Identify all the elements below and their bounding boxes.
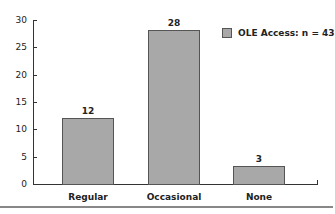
bottom-divider (0, 206, 333, 208)
bar-value-regular: 12 (62, 106, 114, 116)
y-tick-label: 5 (7, 152, 27, 162)
y-tick-mark (33, 157, 37, 158)
x-category-label: None (219, 192, 299, 202)
y-tick-label: 25 (7, 42, 27, 52)
y-tick-label: 20 (7, 70, 27, 80)
y-tick-label: 30 (7, 15, 27, 25)
x-category-label: Regular (48, 192, 128, 202)
y-tick-mark (33, 20, 37, 21)
bar-value-none: 3 (233, 154, 285, 164)
legend-swatch-icon (222, 28, 232, 38)
legend: OLE Access: n = 43 (222, 28, 335, 38)
bar-none (233, 166, 285, 185)
legend-label: OLE Access: n = 43 (238, 28, 335, 38)
y-tick-mark (33, 129, 37, 130)
y-tick-label: 10 (7, 124, 27, 134)
y-tick-mark (33, 47, 37, 48)
x-category-label: Occasional (134, 192, 214, 202)
bar-regular (62, 118, 114, 185)
y-tick-label: 0 (7, 179, 27, 189)
x-axis-end-tick (317, 180, 318, 185)
y-tick-mark (33, 102, 37, 103)
bar-value-occasional: 28 (148, 18, 200, 28)
y-tick-label: 15 (7, 97, 27, 107)
y-tick-mark (33, 75, 37, 76)
bar-occasional (148, 30, 200, 185)
